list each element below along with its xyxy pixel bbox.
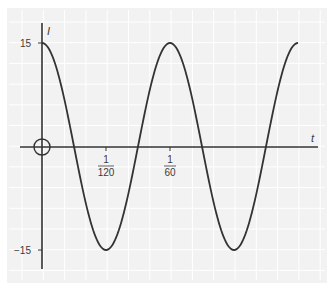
y-axis-label: I [47, 25, 50, 37]
y-tick-label-bottom: −15 [14, 245, 31, 256]
x-tick2-numerator: 1 [167, 154, 173, 165]
chart-svg: 15 −15 1 120 1 60 I t [0, 0, 334, 287]
grid-lines [9, 10, 325, 280]
x-axis-label: t [311, 132, 315, 144]
x-tick2-denominator: 60 [164, 167, 176, 178]
x-tick1-numerator: 1 [103, 154, 109, 165]
y-tick-label-top: 15 [20, 38, 32, 49]
x-tick1-denominator: 120 [98, 167, 115, 178]
